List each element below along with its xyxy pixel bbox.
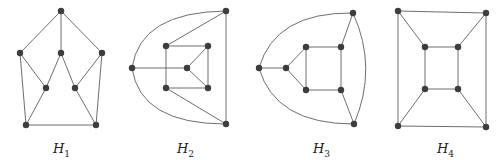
graph-vertex bbox=[58, 50, 64, 56]
graph-h4 bbox=[395, 8, 489, 130]
graph-vertex bbox=[422, 86, 428, 92]
graph-edge bbox=[61, 53, 75, 88]
graph-vertex bbox=[303, 87, 309, 93]
graph-vertex bbox=[163, 85, 169, 91]
graph-edge bbox=[20, 53, 46, 88]
graph-edge bbox=[75, 53, 102, 88]
graph-edge bbox=[286, 47, 306, 68]
graph-h2 bbox=[129, 8, 229, 127]
label-h3-sub: 3 bbox=[324, 149, 330, 159]
graph-vertex bbox=[205, 43, 211, 49]
graph-edge bbox=[187, 68, 208, 88]
label-h4-sub: 4 bbox=[448, 149, 454, 159]
graph-edge bbox=[46, 53, 61, 88]
label-h4: H4 bbox=[437, 141, 454, 159]
label-h3: H3 bbox=[313, 141, 330, 159]
graph-canvas bbox=[0, 0, 503, 160]
graph-edge bbox=[341, 90, 354, 124]
graph-vertex bbox=[395, 8, 401, 14]
graph-edge bbox=[20, 53, 26, 125]
graph-edge bbox=[458, 13, 486, 47]
label-h1-main: H bbox=[53, 141, 64, 156]
graph-h1 bbox=[17, 8, 105, 128]
graph-edge bbox=[286, 68, 306, 90]
graph-vertex bbox=[223, 121, 229, 127]
graph-edge bbox=[398, 11, 425, 47]
graph-edge bbox=[458, 89, 486, 127]
graph-edge bbox=[75, 88, 96, 125]
graph-vertex bbox=[455, 86, 461, 92]
graph-edge bbox=[20, 11, 61, 53]
graph-edge bbox=[398, 126, 486, 127]
graph-vertex bbox=[350, 10, 356, 16]
graph-vertex bbox=[483, 10, 489, 16]
graph-vertex bbox=[163, 43, 169, 49]
label-h1: H1 bbox=[53, 141, 70, 159]
graph-vertex bbox=[395, 123, 401, 129]
graph-vertex bbox=[256, 65, 262, 71]
graph-vertex bbox=[338, 44, 344, 50]
graph-vertex bbox=[99, 50, 105, 56]
graph-vertex bbox=[184, 65, 190, 71]
graph-vertex bbox=[93, 122, 99, 128]
graph-edge bbox=[187, 46, 208, 68]
graph-vertex bbox=[43, 85, 49, 91]
label-h2-sub: 2 bbox=[188, 149, 194, 159]
graph-vertex bbox=[351, 121, 357, 127]
graph-vertex bbox=[455, 44, 461, 50]
graph-edge bbox=[398, 89, 425, 126]
graph-vertex bbox=[205, 85, 211, 91]
graph-edge bbox=[96, 53, 102, 125]
graph-edge bbox=[398, 11, 486, 13]
graph-vertex bbox=[223, 8, 229, 14]
graph-edge bbox=[166, 11, 226, 46]
graph-vertex bbox=[72, 85, 78, 91]
graph-edge bbox=[26, 88, 46, 125]
graph-edge bbox=[341, 13, 353, 47]
graph-vertex bbox=[283, 65, 289, 71]
graph-vertex bbox=[303, 44, 309, 50]
figure-graphs-h1-h4: H1 H2 H3 H4 bbox=[0, 0, 503, 160]
label-h4-main: H bbox=[437, 141, 448, 156]
graph-h3 bbox=[256, 10, 366, 127]
graph-vertex bbox=[338, 87, 344, 93]
graph-edge bbox=[61, 11, 102, 53]
label-h3-main: H bbox=[313, 141, 324, 156]
label-h1-sub: 1 bbox=[64, 149, 70, 159]
graph-arc-edge bbox=[353, 13, 366, 124]
graph-edge bbox=[166, 88, 226, 124]
graph-vertex bbox=[17, 50, 23, 56]
graph-vertex bbox=[129, 65, 135, 71]
graph-vertex bbox=[483, 124, 489, 130]
graph-vertex bbox=[23, 122, 29, 128]
graph-vertex bbox=[58, 8, 64, 14]
label-h2-main: H bbox=[177, 141, 188, 156]
graph-vertex bbox=[422, 44, 428, 50]
label-h2: H2 bbox=[177, 141, 194, 159]
